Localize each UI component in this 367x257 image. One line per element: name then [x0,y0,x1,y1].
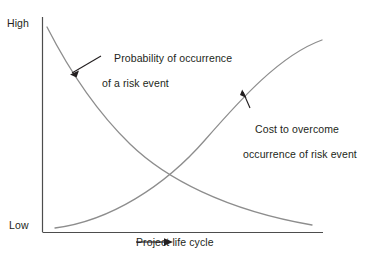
probability-arrow-pointer-icon [70,56,101,78]
y-axis-high-label: High [7,17,29,30]
right-arrow-icon [136,236,174,248]
annotation-cost-line2: occurrence of risk event [243,148,357,161]
annotation-probability-line2: of a risk event [102,77,232,90]
annotation-cost: Cost to overcome occurrence of risk even… [243,110,357,185]
risk-vs-cost-chart: High Low Project life cycle Probability … [0,0,367,257]
annotation-probability: Probability of occurrence of a risk even… [102,39,232,114]
annotation-cost-line1: Cost to overcome [255,123,339,135]
annotation-probability-line1: Probability of occurrence [114,52,232,64]
y-axis-low-label: Low [9,219,29,232]
x-axis-title-group: Project life cycle [136,236,214,249]
